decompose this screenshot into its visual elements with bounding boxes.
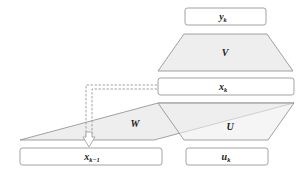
weight-u-label: U [226, 121, 234, 132]
weight-w-label: W [131, 118, 141, 129]
rnn-diagram: yk V xk W U xk−1 uk [0, 0, 303, 173]
